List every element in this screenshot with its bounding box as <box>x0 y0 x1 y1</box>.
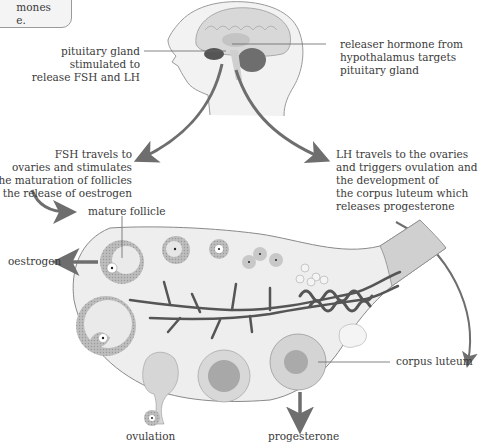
oestrogen-label: oestrogen <box>8 255 61 268</box>
lh-line-1: LH travels to the ovaries <box>336 148 477 161</box>
lh-line-3: the development of <box>336 174 477 187</box>
ovulation-label: ovulation <box>126 430 175 443</box>
progesterone-label: progesterone <box>268 430 339 443</box>
lh-line-5: releases progesterone <box>336 200 477 213</box>
hypothalamus-line-3: pituitary gland <box>340 64 463 77</box>
pituitary-label: pituitary gland stimulated to release FS… <box>32 45 140 84</box>
lh-label: LH travels to the ovaries and triggers o… <box>336 148 477 213</box>
fsh-line-3: the maturation of follicles <box>0 174 132 187</box>
pituitary-line-1: pituitary gland <box>32 45 140 58</box>
lh-line-4: the corpus luteum which <box>336 187 477 200</box>
pituitary-line-2: stimulated to <box>32 58 140 71</box>
lh-line-2: and triggers ovulation and <box>336 161 477 174</box>
hypothalamus-line-1: releaser hormone from <box>340 38 463 51</box>
hypothalamus-label: releaser hormone from hypothalamus targe… <box>340 38 463 77</box>
head-illustration <box>168 2 303 116</box>
fsh-label: FSH travels to ovaries and stimulates th… <box>0 148 132 200</box>
pituitary-line-3: release FSH and LH <box>32 71 140 84</box>
fsh-line-1: FSH travels to <box>0 148 132 161</box>
fsh-line-2: ovaries and stimulates <box>0 161 132 174</box>
corpus-luteum-label: corpus luteum <box>396 355 473 368</box>
mature-follicle-label: mature follicle <box>88 205 166 218</box>
hypothalamus-line-2: hypothalamus targets <box>340 51 463 64</box>
fsh-line-4: and the release of oestrogen <box>0 187 132 200</box>
